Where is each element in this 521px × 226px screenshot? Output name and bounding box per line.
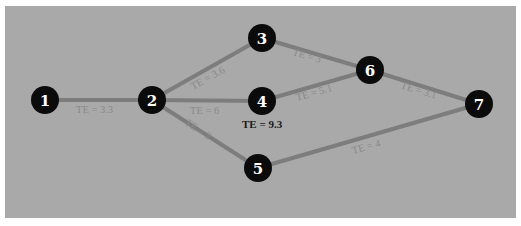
edge-label-3-6: TE = 3: [291, 46, 322, 65]
edge-5-7: [258, 104, 479, 168]
pert-network-diagram: TE = 3.3 TE = 3.6 TE = 6 TE = 2 TE = 3 T…: [0, 0, 521, 226]
edge-label-2-5: TE = 2: [183, 116, 214, 141]
edge-2-4: [152, 100, 262, 101]
edge-label-2-4: TE = 6: [190, 105, 219, 116]
node-6[interactable]: 6: [356, 56, 384, 84]
node-1-label: 1: [40, 92, 50, 110]
node-5[interactable]: 5: [244, 154, 272, 182]
node-7-label: 7: [474, 96, 484, 114]
node-6-label: 6: [365, 62, 375, 80]
node-2-label: 2: [147, 92, 157, 110]
node-1[interactable]: 1: [31, 86, 59, 114]
node-3[interactable]: 3: [248, 24, 276, 52]
node-annotation-4: TE = 9.3: [242, 118, 283, 130]
edge-label-1-2: TE = 3.3: [76, 104, 113, 115]
node-7[interactable]: 7: [465, 90, 493, 118]
node-4-label: 4: [257, 93, 267, 111]
edge-2-3: [152, 38, 262, 100]
edge-label-6-7: TE = 3.1: [399, 79, 438, 100]
node-2[interactable]: 2: [138, 86, 166, 114]
node-4[interactable]: 4: [248, 87, 276, 115]
node-5-label: 5: [253, 160, 263, 178]
node-3-label: 3: [257, 30, 267, 48]
